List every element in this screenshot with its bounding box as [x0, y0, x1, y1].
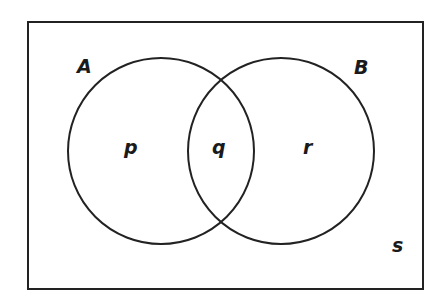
- region-p-label: p: [123, 136, 138, 158]
- universal-set-label: s: [392, 234, 403, 256]
- set-b-label: B: [354, 56, 368, 78]
- set-a-circle: [68, 58, 254, 244]
- region-r-label: r: [303, 136, 314, 158]
- venn-diagram: A B p q r s: [0, 0, 441, 307]
- region-q-label: q: [212, 136, 226, 158]
- set-a-label: A: [75, 55, 92, 77]
